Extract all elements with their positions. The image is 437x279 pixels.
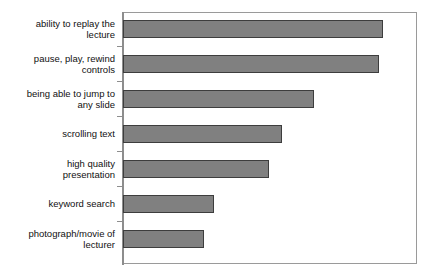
bar-row: ability to replay the lecture <box>0 20 437 38</box>
bar-row: keyword search <box>0 195 437 213</box>
bar-chart: ability to replay the lecturepause, play… <box>0 0 437 279</box>
bar <box>123 90 314 108</box>
category-label: photograph/movie of lecturer <box>8 228 115 251</box>
bar-row: pause, play, rewind controls <box>0 55 437 73</box>
bar <box>123 195 214 213</box>
axis-tick <box>117 151 122 152</box>
category-label: keyword search <box>8 198 115 210</box>
axis-tick <box>117 221 122 222</box>
bar-row: scrolling text <box>0 125 437 143</box>
bar <box>123 20 383 38</box>
axis-tick <box>117 116 122 117</box>
bar-row: being able to jump to any slide <box>0 90 437 108</box>
bar-row: high quality presentation <box>0 160 437 178</box>
category-label: being able to jump to any slide <box>8 88 115 111</box>
category-label: pause, play, rewind controls <box>8 53 115 76</box>
axis-tick <box>117 81 122 82</box>
bar <box>123 55 379 73</box>
bar <box>123 125 282 143</box>
category-label: scrolling text <box>8 128 115 140</box>
bar <box>123 160 269 178</box>
bar-row: photograph/movie of lecturer <box>0 230 437 248</box>
category-label: high quality presentation <box>8 158 115 181</box>
axis-tick <box>117 186 122 187</box>
axis-tick <box>117 46 122 47</box>
category-label: ability to replay the lecture <box>8 18 115 41</box>
bar <box>123 230 204 248</box>
